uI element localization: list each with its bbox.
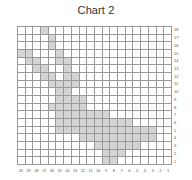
grid-cell (49, 111, 57, 119)
grid-cell (41, 96, 49, 104)
grid-cell (18, 73, 26, 81)
grid-cell (26, 73, 34, 81)
grid-cell (141, 88, 149, 96)
grid-cell (49, 58, 57, 66)
grid-cell (118, 88, 126, 96)
grid-cell (80, 81, 88, 89)
column-label: 14 (64, 167, 72, 173)
grid-cell (56, 119, 64, 127)
grid-cell (33, 157, 41, 165)
grid-cell (157, 150, 165, 158)
grid-cell (33, 142, 41, 150)
grid-cell (118, 73, 126, 81)
grid-cell (95, 142, 103, 150)
grid-cell (64, 119, 72, 127)
grid-cell (18, 119, 26, 127)
grid-cell (26, 134, 34, 142)
grid-cell (72, 81, 80, 89)
grid-cell (141, 58, 149, 66)
grid-cell (126, 96, 134, 104)
grid-cell (164, 88, 172, 96)
grid-cell (56, 73, 64, 81)
grid-cell (18, 88, 26, 96)
grid-cell (87, 142, 95, 150)
column-label: 4 (141, 167, 149, 173)
grid-cell (56, 27, 64, 35)
grid-cell (64, 27, 72, 35)
grid-cell (110, 111, 118, 119)
grid-cell (56, 157, 64, 165)
grid-cell (133, 42, 141, 50)
grid-cell (103, 35, 111, 43)
grid-cell (110, 35, 118, 43)
grid-cell (126, 134, 134, 142)
grid-cell (41, 58, 49, 66)
grid-cell (126, 81, 134, 89)
grid-cell (56, 81, 64, 89)
grid-cell (72, 27, 80, 35)
row-label: 11 (174, 80, 190, 88)
grid-cell (141, 111, 149, 119)
grid-cell (164, 81, 172, 89)
grid-cell (133, 73, 141, 81)
grid-cell (26, 27, 34, 35)
grid-cell (56, 127, 64, 135)
grid-cell (95, 42, 103, 50)
grid-cell (149, 88, 157, 96)
column-label: 8 (110, 167, 118, 173)
grid-cell (149, 65, 157, 73)
row-label: 12 (174, 72, 190, 80)
grid-cell (118, 127, 126, 135)
grid-cell (103, 157, 111, 165)
grid-cell (118, 58, 126, 66)
grid-cell (49, 88, 57, 96)
grid-cell (72, 35, 80, 43)
grid-cell (33, 111, 41, 119)
grid-cell (133, 35, 141, 43)
grid-cell (33, 104, 41, 112)
grid-cell (141, 157, 149, 165)
grid-cell (72, 157, 80, 165)
grid-cell (126, 88, 134, 96)
grid-cell (95, 127, 103, 135)
grid-cell (126, 119, 134, 127)
grid-cell (118, 81, 126, 89)
grid-cell (87, 96, 95, 104)
column-label: 19 (25, 167, 33, 173)
grid-cell (41, 157, 49, 165)
row-label: 13 (174, 65, 190, 73)
grid-cell (149, 73, 157, 81)
grid-cell (126, 58, 134, 66)
grid-cell (56, 104, 64, 112)
grid-cell (157, 111, 165, 119)
grid-cell (110, 134, 118, 142)
grid-cell (49, 119, 57, 127)
grid-cell (164, 104, 172, 112)
column-label: 11 (87, 167, 95, 173)
column-label: 15 (56, 167, 64, 173)
grid-cell (87, 42, 95, 50)
row-label: 4 (174, 134, 190, 142)
grid-cell (157, 119, 165, 127)
grid-cell (157, 50, 165, 58)
grid-cell (126, 35, 134, 43)
grid-cell (80, 65, 88, 73)
grid-cell (164, 157, 172, 165)
grid-cell (18, 157, 26, 165)
grid-cell (133, 27, 141, 35)
grid-cell (87, 73, 95, 81)
grid-cell (33, 88, 41, 96)
grid-cell (64, 157, 72, 165)
grid-cell (87, 127, 95, 135)
grid-cell (164, 42, 172, 50)
grid-cell (149, 104, 157, 112)
grid-cell (149, 35, 157, 43)
column-label: 7 (118, 167, 126, 173)
column-label: 10 (95, 167, 103, 173)
grid-cell (87, 150, 95, 158)
grid-cell (95, 81, 103, 89)
grid-cell (64, 150, 72, 158)
grid-cell (33, 96, 41, 104)
grid-cell (149, 134, 157, 142)
column-label: 6 (126, 167, 134, 173)
